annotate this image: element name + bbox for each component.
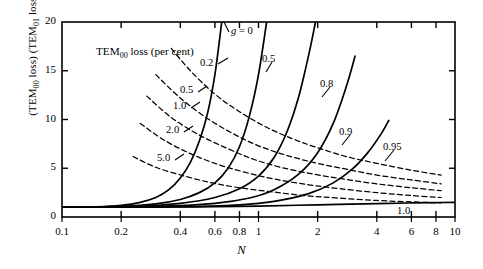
y-tick-label-10: 10 [22,112,56,124]
x-tick-label-1: 1 [239,225,279,237]
y-tick-label-5: 5 [22,160,56,172]
in-plot-title: TEM00 loss (per cent) [96,45,194,60]
x-tick-label-10: 10 [435,225,475,237]
x-tick-label-0.1: 0.1 [42,225,82,237]
curve-label-g-0.5: 0.5 [262,53,275,64]
curve-label-g-0: g = 0 [231,25,253,36]
y-tick-label-20: 20 [22,14,56,26]
x-axis-label: N [0,243,483,258]
contour-label-0.2: 0.2 [200,57,213,68]
contour-label-2.0: 2.0 [166,124,179,135]
y-tick-label-0: 0 [22,209,56,221]
curve-label-g-0.8: 0.8 [320,78,333,89]
contour-label-1.0: 1.0 [173,100,186,111]
contour-label-0.5: 0.5 [180,84,193,95]
x-tick-label-2: 2 [298,225,338,237]
curve-label-g-0.95: 0.95 [383,141,402,152]
figure-tem-loss-ratio-chart: (TEM00 loss) (TEM01 loss)−1 N TEM00 loss… [0,0,483,269]
curve-label-g-1.0: 1.0 [397,205,410,216]
curve-label-g-0.9: 0.9 [339,126,352,137]
x-tick-label-0.2: 0.2 [101,225,141,237]
y-tick-label-15: 15 [22,63,56,75]
contour-label-5.0: 5.0 [157,152,170,163]
